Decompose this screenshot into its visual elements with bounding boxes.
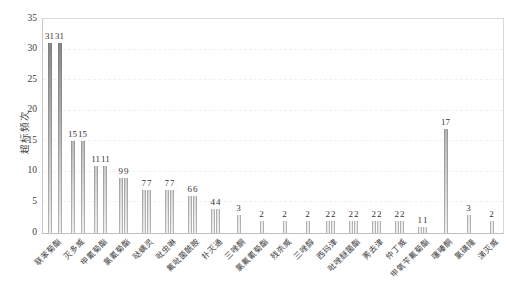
- category-slot: 77: [135, 19, 158, 233]
- bar-column: 2: [372, 210, 377, 233]
- bar-value-label: 2: [372, 210, 377, 219]
- bar-value-label: 4: [216, 198, 221, 207]
- bar-column: 4: [216, 198, 221, 233]
- bar: [165, 190, 169, 233]
- bar-value-label: 7: [147, 179, 152, 188]
- bar: [283, 221, 287, 233]
- bar: [444, 129, 448, 233]
- bar-value-label: 1: [418, 216, 423, 225]
- bar-value-label: 15: [78, 130, 87, 139]
- bar-column: 2: [349, 210, 354, 233]
- bar-value-label: 2: [377, 210, 382, 219]
- bar-value-label: 1: [423, 216, 428, 225]
- category-slot: 77: [158, 19, 181, 233]
- x-tick-label: 氯氰菊酯: [100, 236, 132, 268]
- bar: [423, 227, 427, 233]
- x-tick-label: 吡虫啉: [152, 236, 178, 262]
- bar: [306, 221, 310, 233]
- bar-value-label: 3: [236, 204, 241, 213]
- y-tick-label: 25: [3, 75, 37, 85]
- bar-value-label: 11: [91, 155, 100, 164]
- bar: [490, 221, 494, 233]
- category-slot: 2: [250, 19, 273, 233]
- bar-column: 11: [91, 155, 100, 233]
- bar-column: 2: [326, 210, 331, 233]
- bar: [188, 196, 192, 233]
- x-tick-label: 甲氰菊酯: [77, 236, 109, 268]
- bar-column: 15: [68, 130, 77, 233]
- bar: [400, 221, 404, 233]
- bar: [71, 141, 75, 233]
- bar-column: 3: [466, 204, 471, 233]
- bar: [142, 190, 146, 233]
- category-slot: 2: [296, 19, 319, 233]
- bar-column: 7: [170, 179, 175, 233]
- x-tick-label: 灭多威: [60, 236, 86, 262]
- bar: [81, 141, 85, 233]
- bar: [395, 221, 399, 233]
- category-slot: 22: [365, 19, 388, 233]
- bar-column: 2: [282, 210, 287, 233]
- bar: [94, 166, 98, 233]
- bar-column: 6: [188, 185, 193, 233]
- bar-value-label: 6: [188, 185, 193, 194]
- bar-column: 7: [147, 179, 152, 233]
- category-slot: 17: [434, 19, 457, 233]
- x-tick-label: 哒螨灵: [129, 236, 155, 262]
- x-tick-label: 氯氟氰菊酯: [232, 236, 270, 274]
- bar: [260, 221, 264, 233]
- category-slot: 1515: [66, 19, 89, 233]
- bar-column: 9: [124, 167, 129, 233]
- x-tick-label: 氟吡菌酰胺: [163, 236, 201, 274]
- bar-column: 15: [78, 130, 87, 233]
- bar-column: 1: [418, 216, 423, 233]
- bar-column: 2: [377, 210, 382, 233]
- bar: [170, 190, 174, 233]
- bar: [354, 221, 358, 233]
- bar-value-label: 2: [282, 210, 287, 219]
- bar-value-label: 2: [259, 210, 264, 219]
- y-axis-title: 超标频次: [17, 110, 31, 154]
- bar-value-label: 7: [170, 179, 175, 188]
- bar-value-label: 2: [489, 210, 494, 219]
- category-slot: 22: [342, 19, 365, 233]
- bar-value-label: 3: [466, 204, 471, 213]
- x-tick-label: 联苯菊酯: [31, 236, 63, 268]
- x-tick-label: 甲氧苄氟菊酯: [387, 236, 431, 280]
- category-slot: 22: [319, 19, 342, 233]
- category-slot: 22: [388, 19, 411, 233]
- y-tick-label: 20: [3, 105, 37, 115]
- bar-value-label: 2: [354, 210, 359, 219]
- bar-column: 11: [101, 155, 110, 233]
- bar: [193, 196, 197, 233]
- bar: [119, 178, 123, 233]
- x-tick-label: 氯磺隆: [451, 236, 477, 262]
- bar-column: 4: [211, 198, 216, 233]
- bar-value-label: 17: [441, 118, 450, 127]
- category-slot: 3131: [43, 19, 66, 233]
- bar: [124, 178, 128, 233]
- bar-value-label: 15: [68, 130, 77, 139]
- bar-chart: 超标频次 05101520253035 31311515111199777766…: [0, 0, 509, 284]
- category-slot: 2: [273, 19, 296, 233]
- bar-column: 7: [165, 179, 170, 233]
- category-slot: 3: [227, 19, 250, 233]
- y-tick-label: 0: [3, 228, 37, 238]
- bar: [467, 215, 471, 233]
- category-slot: 2: [480, 19, 503, 233]
- bar-column: 31: [45, 32, 54, 233]
- bar-value-label: 11: [101, 155, 110, 164]
- bar-value-label: 2: [331, 210, 336, 219]
- bar-column: 2: [395, 210, 400, 233]
- bar-value-label: 7: [165, 179, 170, 188]
- bar: [377, 221, 381, 233]
- bars-container: 3131151511119977776644322222222222111732: [43, 19, 503, 233]
- bar: [326, 221, 330, 233]
- bar: [418, 227, 422, 233]
- plot-area: 3131151511119977776644322222222222111732: [42, 18, 504, 234]
- bar-column: 3: [236, 204, 241, 233]
- bar-column: 2: [489, 210, 494, 233]
- x-tick-label: 扑灭通: [198, 236, 224, 262]
- bar-value-label: 9: [124, 167, 129, 176]
- bar: [48, 43, 52, 233]
